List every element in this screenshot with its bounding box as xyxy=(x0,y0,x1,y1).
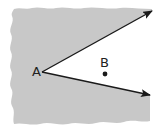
point-label-b: B xyxy=(100,55,109,70)
point-b-dot xyxy=(103,72,108,77)
vertex-label-a: A xyxy=(32,64,41,79)
angle-diagram: A B xyxy=(0,0,164,131)
